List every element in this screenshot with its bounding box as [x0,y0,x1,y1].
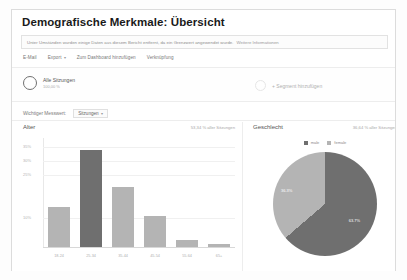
report-panel: Demografische Merkmale: Übersicht Unter … [11,9,396,271]
key-metric-row: Wichtiger Messwert: Sitzungen ▾ [23,109,108,118]
key-metric-select[interactable]: Sitzungen ▾ [73,109,107,118]
gender-chart-header: Geschlecht 36,64 % aller Sitzungen [253,124,396,130]
bar[interactable] [176,240,198,247]
bar[interactable] [112,187,134,247]
export-menu-button[interactable]: Export▾ [48,55,66,60]
vertical-divider [242,122,243,271]
bar[interactable] [80,150,102,247]
pie-shape [273,152,377,256]
chevron-down-icon: ▾ [64,55,66,60]
plus-circle-icon [255,80,266,91]
x-tick-label: 35-44 [107,254,139,258]
x-axis [43,247,235,248]
bar-slot [43,139,75,247]
bar-slot [203,139,235,247]
segment-name: Alle Sitzungen [43,77,75,84]
email-button[interactable]: E-Mail [23,55,37,60]
shortcut-button[interactable]: Verknüpfung [147,55,174,60]
divider [12,120,396,121]
bar-slot [139,139,171,247]
legend-swatch [304,141,308,145]
report-screen: Demografische Merkmale: Übersicht Unter … [0,0,407,280]
gender-chart-subtitle: 36,64 % aller Sitzungen [353,125,396,130]
y-tick-label: 25% [23,172,31,177]
key-metric-label: Wichtiger Messwert: [23,111,66,116]
gender-chart-title: Geschlecht [253,124,283,130]
pie-slice-label-male: 63.7% [349,218,360,223]
data-threshold-notice: Unter Umständen wurden einige Daten aus … [21,35,388,49]
gender-chart-block: Geschlecht 36,64 % aller Sitzungen malef… [253,124,396,270]
bar[interactable] [144,216,166,247]
x-tick-label: 18-24 [43,254,75,258]
x-tick-label: 25-34 [75,254,107,258]
age-chart-title: Alter [23,124,35,130]
age-chart-subtitle: 53,34 % aller Sitzungen [191,125,235,130]
segment-all-sessions[interactable]: Alle Sitzungen 100,00 % [23,76,75,90]
chevron-down-icon: ▾ [101,111,103,116]
y-tick-label: 10% [23,215,31,220]
age-bar-chart: 35%30%25%10% 18-2425-3435-4445-5455-6465… [23,138,235,260]
legend-label: female [334,140,346,145]
key-metric-value: Sitzungen [78,111,98,116]
add-segment-label: + Segment hinzufügen [272,83,322,89]
add-segment-button[interactable]: + Segment hinzufügen [255,80,322,91]
bar-slot [75,139,107,247]
legend-item[interactable]: male [304,140,320,145]
notice-text: Unter Umständen wurden einige Daten aus … [27,40,234,45]
y-tick-label: 30% [23,158,31,163]
bar[interactable] [208,244,230,247]
pie-slice-label-female: 36.3% [281,188,292,193]
segment-bar: Alle Sitzungen 100,00 % + Segment hinzuf… [12,67,396,102]
x-tick-label: 45-54 [139,254,171,258]
add-to-dashboard-button[interactable]: Zum Dashboard hinzufügen [77,55,136,60]
bar-group [43,139,235,247]
y-tick-label: 35% [23,144,31,149]
notice-learn-more-link[interactable]: Weitere Informationen [237,40,279,45]
bar-slot [171,139,203,247]
segment-percent: 100,00 % [43,84,75,90]
export-label: Export [48,55,62,60]
bar[interactable] [48,207,70,247]
age-chart-header: Alter 53,34 % aller Sitzungen [23,124,235,130]
donut-icon [23,76,37,90]
x-tick-label: 65+ [203,254,235,258]
bar-slot [107,139,139,247]
legend-swatch [327,141,331,145]
legend-item[interactable]: female [327,140,346,145]
x-tick-group: 18-2425-3435-4445-5455-6465+ [43,254,235,258]
age-chart-block: Alter 53,34 % aller Sitzungen 35%30%25%1… [23,124,235,270]
segment-texts: Alle Sitzungen 100,00 % [43,77,75,90]
gender-legend: malefemale [253,140,396,145]
legend-label: male [311,140,320,145]
gender-pie-chart[interactable]: 63.7% 36.3% [273,152,377,256]
x-tick-label: 55-64 [171,254,203,258]
page-title: Demografische Merkmale: Übersicht [22,16,225,28]
report-toolbar: E-Mail Export▾ Zum Dashboard hinzufügen … [23,55,174,60]
